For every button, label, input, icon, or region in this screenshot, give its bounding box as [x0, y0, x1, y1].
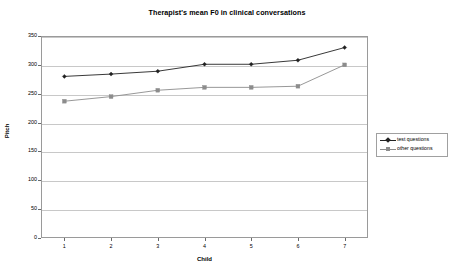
chart-container: Therapist's mean F0 in clinical conversa…: [0, 0, 454, 278]
gridline: [42, 124, 367, 125]
gridline: [42, 181, 367, 182]
y-axis-tick-mark: [38, 94, 41, 95]
x-axis-tick-mark: [298, 238, 299, 241]
y-axis-tick-label: 250: [7, 91, 37, 96]
legend-square-marker-icon: [380, 145, 396, 153]
x-axis-tick-label: 2: [99, 244, 123, 249]
gridline: [42, 66, 367, 67]
x-axis-title: Child: [41, 256, 368, 262]
y-axis-tick-label: 150: [7, 148, 37, 153]
x-axis-tick-label: 7: [333, 244, 357, 249]
legend-item-label: other questions: [396, 146, 432, 151]
y-axis-tick-label: 100: [7, 177, 37, 182]
y-axis-tick-label: 50: [7, 206, 37, 211]
x-axis-tick-label: 3: [146, 244, 170, 249]
x-axis-tick-mark: [345, 238, 346, 241]
x-axis-tick-mark: [158, 238, 159, 241]
legend-item-label: test questions: [396, 137, 429, 142]
legend-item[interactable]: test questions: [380, 136, 444, 144]
y-axis-title: Pitch: [4, 111, 10, 151]
legend-item[interactable]: other questions: [380, 145, 444, 153]
gridline: [42, 152, 367, 153]
y-axis-tick-label: 350: [7, 33, 37, 38]
gridline: [42, 95, 367, 96]
chart-title: Therapist's mean F0 in clinical conversa…: [0, 8, 454, 17]
y-axis-tick-mark: [38, 151, 41, 152]
y-axis-tick-mark: [38, 36, 41, 37]
y-axis-tick-mark: [38, 238, 41, 239]
y-axis-tick-mark: [38, 123, 41, 124]
x-axis-tick-label: 1: [52, 244, 76, 249]
y-axis-tick-mark: [38, 65, 41, 66]
y-axis-tick-label: 0: [7, 235, 37, 240]
x-axis-tick-mark: [205, 238, 206, 241]
x-axis-tick-label: 5: [239, 244, 263, 249]
gridline: [42, 37, 367, 38]
y-axis-tick-mark: [38, 209, 41, 210]
gridline: [42, 210, 367, 211]
x-axis-tick-mark: [111, 238, 112, 241]
plot-area: [41, 36, 368, 238]
y-axis-tick-mark: [38, 180, 41, 181]
y-axis-tick-label: 200: [7, 120, 37, 125]
chart-legend: test questionsother questions: [376, 133, 448, 157]
x-axis-tick-label: 4: [193, 244, 217, 249]
x-axis-tick-mark: [64, 238, 65, 241]
x-axis-tick-label: 6: [286, 244, 310, 249]
y-axis-tick-label: 300: [7, 62, 37, 67]
legend-diamond-marker-icon: [380, 136, 396, 144]
x-axis-tick-mark: [251, 238, 252, 241]
